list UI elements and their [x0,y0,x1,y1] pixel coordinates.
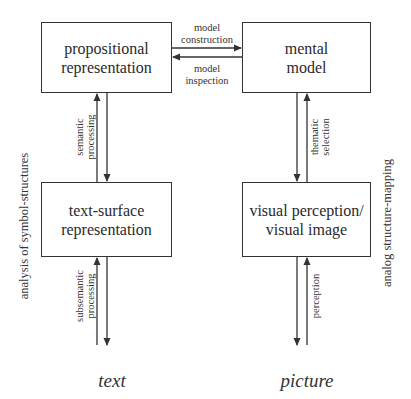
subsemantic-processing-label: subsemantic processing [74,260,96,332]
label-line2: processing [85,107,96,167]
box-label-line1: propositional [64,39,148,58]
text-surface-representation-box: text-surface representation [41,182,172,257]
label-line2: inspection [172,75,242,87]
box-label-line2: model [287,58,327,77]
text-source-label: text [72,370,152,392]
mental-model-box: mental model [242,22,371,93]
perception-label: perception [310,265,322,327]
picture-source-label: picture [262,370,352,392]
visual-perception-box: visual perception/ visual image [242,182,371,257]
thematic-selection-label: thematic selection [309,107,331,167]
box-label-line2: representation [61,58,152,77]
label-line1: perception [310,265,321,327]
label-line2: construction [172,34,242,46]
box-label-line1: mental [285,39,329,58]
box-label-line1: text-surface [69,201,145,220]
box-label-line2: visual image [266,220,347,239]
right-side-label: analog structure-mapping [380,153,396,293]
model-inspection-label: model inspection [172,63,242,87]
propositional-representation-box: propositional representation [41,22,172,93]
model-construction-label: model construction [172,22,242,46]
box-label-line2: representation [61,220,152,239]
left-side-label: analysis of symbol-structures [17,146,33,306]
label-line2: selection [320,107,331,167]
label-line1: model [172,63,242,75]
semantic-processing-label: semantic processing [74,107,96,167]
label-line1: thematic [309,107,320,167]
label-line2: processing [85,260,96,332]
box-label-line1: visual perception/ [249,201,363,220]
label-line1: model [172,22,242,34]
label-line1: subsemantic [74,260,85,332]
label-line1: semantic [74,107,85,167]
